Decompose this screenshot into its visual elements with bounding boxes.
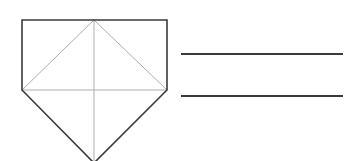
figure-canvas [0,0,354,161]
canvas-background [0,0,354,161]
figure-svg [0,0,354,161]
